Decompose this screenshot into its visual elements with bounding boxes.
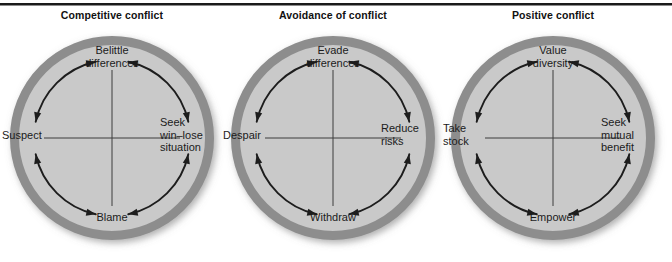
- node-label-bottom: Withdraw: [227, 211, 439, 224]
- node-label-left: Despair: [223, 129, 285, 142]
- node-label-bottom: Blame: [6, 211, 218, 224]
- panel-title: Positive conflict: [441, 9, 665, 21]
- node-label-top: Value diversity: [447, 44, 659, 69]
- panel-title: Competitive conflict: [0, 9, 224, 21]
- node-label-top: Belittle differences: [6, 44, 218, 69]
- node-label-right: Seek mutual benefit: [601, 116, 663, 154]
- node-label-left: Take stock: [443, 122, 505, 147]
- panel-competitive-conflict: Competitive conflict Belittle difference…: [0, 0, 224, 262]
- conflict-cycles-figure: Competitive conflict Belittle difference…: [0, 0, 672, 262]
- node-label-bottom: Empower: [447, 211, 659, 224]
- panel-positive-conflict: Positive conflict Value diversity Seek m…: [441, 0, 665, 262]
- node-label-right: Reduce risks: [381, 122, 443, 147]
- node-label-left: Suspect: [2, 129, 64, 142]
- panel-avoidance-of-conflict: Avoidance of conflict Evade differences …: [221, 0, 445, 262]
- node-label-top: Evade differences: [227, 44, 439, 69]
- panel-title: Avoidance of conflict: [221, 9, 445, 21]
- node-label-right: Seek win–lose situation: [160, 116, 222, 154]
